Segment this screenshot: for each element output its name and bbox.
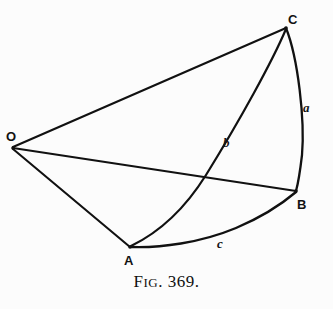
arc-a-C-B [286,28,303,191]
vertex-point-O [11,146,15,150]
arc-label-a: a [303,101,310,114]
vertex-point-B [294,189,298,193]
caption-number: . 369. [158,272,199,291]
vertex-label-B: B [297,198,306,211]
vertex-label-O: O [6,130,16,143]
vertex-point-A [128,245,132,249]
caption-lead-letter: F [134,272,144,291]
caption-smallcaps: IG [144,275,159,290]
spherical-triangle-diagram [0,0,333,309]
edge-O-C [13,28,286,147]
figure-container: O C B A a b c FIG. 369. [0,0,333,309]
figure-caption: FIG. 369. [0,272,333,292]
arc-label-c: c [217,237,223,250]
arc-c-A-B [131,192,296,247]
vertex-label-C: C [288,13,297,26]
vertex-label-A: A [124,254,133,267]
arc-label-b: b [223,136,230,149]
